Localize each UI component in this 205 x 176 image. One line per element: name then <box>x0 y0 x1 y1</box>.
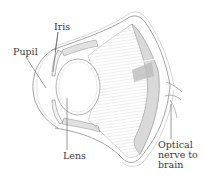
lens-shape <box>56 59 100 115</box>
eye-diagram: Iris Pupil Lens Optical nerve to brain <box>0 0 205 176</box>
optic-line-3: brain <box>158 160 198 170</box>
label-optic-nerve: Optical nerve to brain <box>158 140 198 170</box>
label-pupil: Pupil <box>13 47 38 57</box>
label-iris: Iris <box>54 22 70 32</box>
label-lens: Lens <box>63 151 86 161</box>
